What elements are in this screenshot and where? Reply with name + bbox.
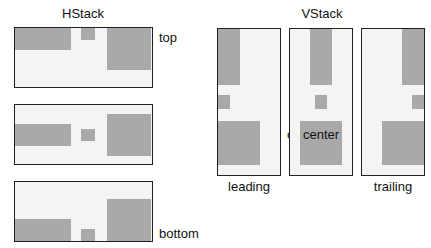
- vstack-trailing-narrow-tall-box: [402, 29, 424, 85]
- vstack-leading-narrow-tall-box: [218, 29, 240, 85]
- hstack-alignment-bottom-frame: [14, 181, 153, 242]
- vstack-center-narrow-tall-box: [310, 29, 332, 85]
- vstack-alignment-center-label: center: [287, 127, 355, 142]
- hstack-alignment-top-frame: [14, 27, 153, 88]
- hstack-top-wide-short-box: [15, 28, 71, 50]
- vstack-alignment-trailing-frame: [361, 28, 425, 176]
- vstack-section-title: VStack: [216, 6, 428, 21]
- vstack-trailing-small-box: [412, 95, 424, 109]
- hstack-alignment-center-frame: [14, 104, 153, 165]
- hstack-bottom-small-box: [81, 229, 95, 241]
- vstack-alignment-center-frame: [289, 28, 353, 176]
- hstack-top-wide-tall-box: [107, 28, 151, 70]
- vstack-trailing-wide-tall-box: [382, 121, 424, 165]
- hstack-alignment-bottom-label: bottom: [159, 226, 199, 241]
- vstack-alignment-trailing-label: trailing: [357, 179, 429, 194]
- hstack-bottom-wide-short-box: [15, 219, 71, 241]
- vstack-alignment-leading-frame: [217, 28, 281, 176]
- hstack-alignment-top-label: top: [159, 30, 177, 45]
- hstack-top-small-box: [81, 28, 95, 40]
- hstack-bottom-wide-tall-box: [107, 199, 151, 241]
- hstack-section-title: HStack: [0, 6, 166, 21]
- hstack-center-wide-tall-box: [107, 114, 151, 156]
- hstack-center-wide-short-box: [15, 124, 71, 146]
- vstack-alignment-leading-label: leading: [215, 179, 283, 194]
- vstack-center-small-box: [315, 95, 327, 109]
- hstack-center-small-box: [81, 129, 95, 141]
- vstack-leading-small-box: [218, 95, 230, 109]
- vstack-leading-wide-tall-box: [218, 121, 260, 165]
